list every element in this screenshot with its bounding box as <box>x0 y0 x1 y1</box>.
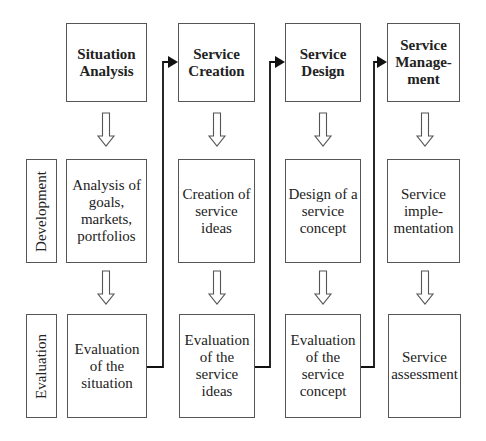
development-text: Analysis of goals, markets, portfolios <box>72 177 141 245</box>
phase-box-service-design: Service Design <box>285 23 361 102</box>
evaluation-box-4: Service assessment <box>388 314 461 418</box>
evaluation-text: Service assessment <box>391 349 458 383</box>
phase-title: Service Manage- ment <box>395 37 452 88</box>
down-arrow-icon <box>209 271 225 304</box>
down-arrow-icon <box>315 113 331 146</box>
phase-title: Situation Analysis <box>77 46 135 80</box>
evaluation-box-3: Evaluation of the service concept <box>285 314 361 418</box>
evaluation-box-2: Evaluation of the service ideas <box>179 314 255 418</box>
phase-box-service-creation: Service Creation <box>178 23 255 102</box>
connector-line-3 <box>361 62 379 367</box>
arrowhead-icon <box>168 56 178 68</box>
evaluation-text: Evaluation of the situation <box>75 341 140 392</box>
evaluation-box-1: Evaluation of the situation <box>67 314 147 418</box>
down-arrow-icon <box>315 271 331 304</box>
row-label-evaluation: Evaluation <box>26 314 57 418</box>
development-text: Design of a service concept <box>288 186 357 237</box>
down-arrow-icon <box>209 113 225 146</box>
development-box-2: Creation of service ideas <box>178 159 255 263</box>
development-box-3: Design of a service concept <box>285 159 361 263</box>
arrowhead-icon <box>275 56 285 68</box>
development-box-1: Analysis of goals, markets, portfolios <box>66 159 147 263</box>
phase-title: Service Design <box>300 46 347 80</box>
down-arrow-icon <box>98 113 114 146</box>
evaluation-text: Evaluation of the service concept <box>291 332 356 400</box>
evaluation-text: Evaluation of the service ideas <box>180 332 254 400</box>
development-box-4: Service imple- mentation <box>387 159 460 263</box>
development-text: Service imple- mentation <box>394 186 454 237</box>
down-arrow-icon <box>98 271 114 304</box>
row-label-development-text: Development <box>33 171 50 252</box>
phase-box-service-management: Service Manage- ment <box>387 23 460 102</box>
down-arrow-icon <box>417 113 433 146</box>
connector-line-1 <box>147 62 170 367</box>
phase-box-situation-analysis: Situation Analysis <box>66 23 147 102</box>
connector-line-2 <box>255 62 277 367</box>
down-arrow-icon <box>417 271 433 304</box>
development-text: Creation of service ideas <box>179 186 254 237</box>
row-label-development: Development <box>26 159 57 263</box>
phase-title: Service Creation <box>188 46 244 80</box>
arrowhead-icon <box>377 56 387 68</box>
row-label-evaluation-text: Evaluation <box>33 334 50 399</box>
